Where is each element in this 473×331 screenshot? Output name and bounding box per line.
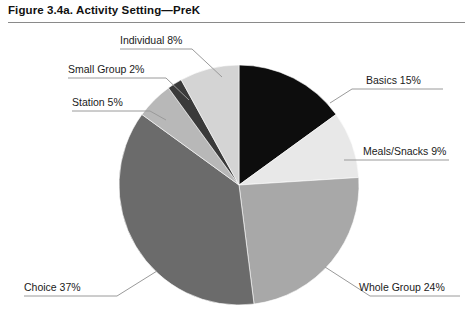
- slice-label-meals-snacks: Meals/Snacks 9%: [361, 145, 448, 158]
- leader-line-basics: [330, 89, 443, 103]
- slice-label-small-group: Small Group 2%: [66, 63, 146, 76]
- slice-label-station: Station 5%: [70, 96, 125, 109]
- pie-chart: Individual 8% Small Group 2% Station 5% …: [0, 0, 473, 331]
- slice-label-individual: Individual 8%: [118, 34, 184, 47]
- pie-slice-whole-group: [239, 177, 359, 304]
- pie-slice-group: [119, 65, 359, 305]
- slice-label-whole-group: Whole Group 24%: [357, 281, 447, 294]
- slice-label-basics: Basics 15%: [364, 74, 423, 87]
- figure-page: Figure 3.4a. Activity Setting—PreK: [0, 0, 473, 331]
- slice-label-choice: Choice 37%: [22, 281, 83, 294]
